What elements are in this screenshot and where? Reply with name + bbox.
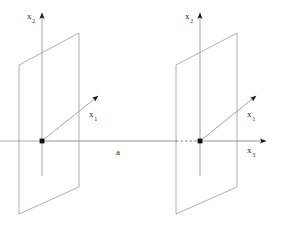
left-plane-outline xyxy=(19,33,79,214)
left-coordinate-frame xyxy=(40,13,98,176)
right-x1-axis-label: x1 xyxy=(247,110,255,121)
left-x2-label-base: x xyxy=(27,11,32,21)
right-x2-axis-label: x2 xyxy=(185,12,193,23)
left-x1-label-base: x xyxy=(89,109,94,119)
right-x1-label-sub: 1 xyxy=(252,116,255,122)
figure-root: x2 x1 x2 x1 x3 a xyxy=(0,0,284,242)
x3-axis-label: x3 xyxy=(247,146,255,157)
right-plane-outline xyxy=(176,33,237,214)
right-x2-label-sub: 2 xyxy=(190,18,193,24)
left-x2-label-sub: 2 xyxy=(32,18,35,24)
right-plane xyxy=(176,33,237,214)
left-plane xyxy=(19,33,79,214)
left-origin-marker xyxy=(40,139,45,144)
plane-diagram-svg xyxy=(0,0,284,242)
left-x2-axis-label: x2 xyxy=(27,12,35,23)
right-origin-marker xyxy=(198,139,203,144)
left-x1-axis-label: x1 xyxy=(89,110,97,121)
left-x1-label-sub: 1 xyxy=(94,116,97,122)
separation-distance-label: a xyxy=(116,148,120,157)
x3-label-base: x xyxy=(247,145,252,155)
right-x1-label-base: x xyxy=(247,109,252,119)
x3-label-sub: 3 xyxy=(252,152,255,158)
right-x2-label-base: x xyxy=(185,11,190,21)
